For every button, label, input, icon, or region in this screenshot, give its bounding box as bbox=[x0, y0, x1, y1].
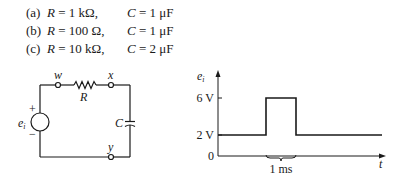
y-axis-label: ei bbox=[197, 69, 205, 84]
resistor-label: R bbox=[79, 90, 88, 104]
node-w-terminal bbox=[56, 83, 61, 88]
node-w-label: w bbox=[54, 68, 62, 82]
tick-label-6v: 6 V bbox=[197, 91, 215, 105]
node-y-terminal bbox=[109, 155, 114, 160]
source-label: ei bbox=[18, 116, 26, 131]
node-y-label: y bbox=[107, 140, 114, 154]
capacitor-label: C bbox=[115, 116, 124, 130]
pulse-width-label: 1 ms bbox=[269, 162, 292, 176]
x-axis-label: t bbox=[379, 157, 383, 171]
node-x-label: x bbox=[107, 68, 114, 82]
circuit-labels: + − ei w x y R C bbox=[18, 68, 124, 154]
resistor-symbol bbox=[74, 82, 96, 89]
plus-sign: + bbox=[29, 102, 36, 116]
waveform-plot bbox=[216, 70, 387, 161]
tick-label-0: 0 bbox=[208, 149, 214, 163]
figure: + − ei w x y R C ei 6 V 2 V 0 t 1 ms bbox=[0, 0, 398, 178]
signal-trace bbox=[218, 98, 382, 135]
y-axis-arrow bbox=[216, 70, 221, 77]
minus-sign: − bbox=[29, 127, 36, 141]
waveform-labels: ei 6 V 2 V 0 t 1 ms bbox=[197, 69, 383, 176]
node-x-terminal bbox=[109, 83, 114, 88]
tick-label-2v: 2 V bbox=[197, 128, 215, 142]
